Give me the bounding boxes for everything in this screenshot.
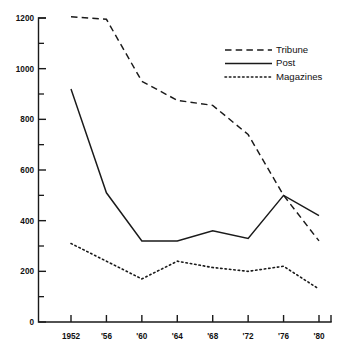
x-axis-tick-label: '64 — [172, 332, 184, 341]
x-axis-tick-label: '72 — [243, 332, 255, 341]
series-line-magazines — [71, 243, 319, 289]
legend-label-post: Post — [276, 57, 296, 68]
y-axis-tick-label: 600 — [20, 166, 34, 175]
x-axis-tick-label: '80 — [313, 332, 325, 341]
y-axis-tick-label: 0 — [29, 318, 34, 327]
chart-legend: TribunePostMagazines — [225, 44, 323, 82]
x-axis-tick-label: '68 — [207, 332, 219, 341]
x-axis-tick-label: 1952 — [62, 332, 81, 341]
legend-label-tribune: Tribune — [276, 44, 308, 55]
chart-canvas: 020040060080010001200 1952'56'60'64'68'7… — [0, 0, 344, 356]
legend-label-magazines: Magazines — [276, 71, 323, 82]
y-axis-tick-label: 1200 — [16, 14, 35, 23]
x-axis-tick-labels: 1952'56'60'64'68'72'76'80 — [62, 332, 325, 341]
y-axis-tick-label: 200 — [20, 267, 34, 276]
y-axis-tick-label: 800 — [20, 115, 34, 124]
y-axis-tick-label: 1000 — [16, 65, 35, 74]
x-axis-tick-label: '56 — [101, 332, 113, 341]
x-axis-tick-label: '60 — [136, 332, 148, 341]
y-axis-tick-label: 400 — [20, 217, 34, 226]
series-line-post — [71, 89, 319, 241]
y-axis-tick-labels: 020040060080010001200 — [16, 14, 35, 327]
x-axis-tick-label: '76 — [278, 332, 290, 341]
line-chart: 020040060080010001200 1952'56'60'64'68'7… — [0, 0, 344, 356]
